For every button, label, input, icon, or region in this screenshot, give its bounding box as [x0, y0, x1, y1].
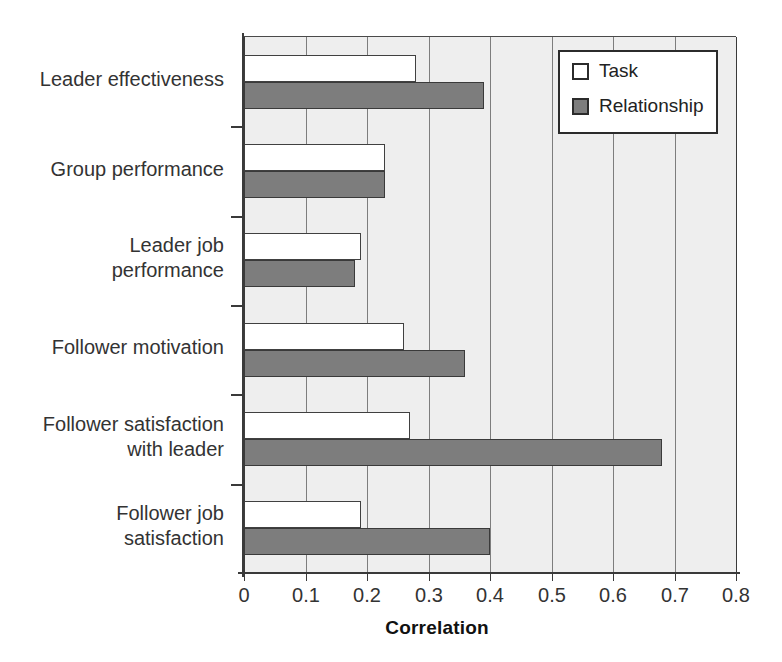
x-tick-0.7 — [675, 573, 676, 581]
y-tick-5 — [231, 484, 243, 486]
x-axis-line — [238, 572, 740, 574]
legend-swatch-relationship-icon — [572, 98, 589, 115]
bar-task-1 — [244, 144, 385, 171]
legend-item-task: Task — [572, 60, 638, 82]
x-tick-label-0.3: 0.3 — [415, 583, 443, 607]
x-tick-0.1 — [306, 573, 307, 581]
bar-relationship-5 — [244, 528, 490, 555]
bar-relationship-1 — [244, 171, 385, 198]
x-tick-0.2 — [367, 573, 368, 581]
y-tick-1 — [231, 126, 243, 128]
x-tick-label-0.8: 0.8 — [722, 583, 750, 607]
bar-relationship-4 — [244, 439, 662, 466]
x-tick-0.3 — [429, 573, 430, 581]
y-tick-3 — [231, 305, 243, 307]
legend-item-relationship: Relationship — [572, 95, 704, 117]
category-label-1: Group performance — [51, 157, 224, 182]
x-tick-0.6 — [613, 573, 614, 581]
bar-task-5 — [244, 501, 361, 528]
x-tick-label-0.6: 0.6 — [599, 583, 627, 607]
legend-swatch-task-icon — [572, 63, 589, 80]
x-axis-title: Correlation — [0, 617, 782, 639]
category-label-2: Leader job performance — [112, 233, 224, 283]
category-label-0: Leader effectiveness — [40, 67, 224, 92]
bar-chart-figure: 00.10.20.30.40.50.60.70.8 Leader effecti… — [0, 0, 782, 662]
bar-relationship-3 — [244, 350, 465, 377]
x-tick-0.5 — [552, 573, 553, 581]
bar-relationship-2 — [244, 260, 355, 287]
x-tick-label-0.4: 0.4 — [476, 583, 504, 607]
gridline-0 — [244, 37, 245, 573]
gridline-0.5 — [552, 37, 553, 573]
category-label-4: Follower satisfaction with leader — [43, 412, 224, 462]
legend-label-relationship: Relationship — [599, 95, 704, 117]
x-tick-0.8 — [736, 573, 737, 581]
x-axis-title-text: Correlation — [385, 617, 489, 639]
legend: Task Relationship — [558, 50, 718, 134]
gridline-0.1 — [306, 37, 307, 573]
x-tick-label-0.5: 0.5 — [538, 583, 566, 607]
gridline-0.2 — [367, 37, 368, 573]
category-label-3: Follower motivation — [52, 335, 224, 360]
gridline-0.3 — [429, 37, 430, 573]
bar-task-2 — [244, 233, 361, 260]
bar-relationship-0 — [244, 82, 484, 109]
legend-label-task: Task — [599, 60, 638, 82]
x-tick-label-0: 0 — [238, 583, 249, 607]
bar-task-3 — [244, 323, 404, 350]
x-tick-0.4 — [490, 573, 491, 581]
y-tick-4 — [231, 394, 243, 396]
category-label-5: Follower job satisfaction — [116, 501, 224, 551]
gridline-0.8 — [736, 37, 737, 573]
bar-task-0 — [244, 55, 416, 82]
x-tick-label-0.7: 0.7 — [661, 583, 689, 607]
y-tick-2 — [231, 216, 243, 218]
gridline-0.4 — [490, 37, 491, 573]
x-tick-label-0.1: 0.1 — [292, 583, 320, 607]
x-tick-0 — [244, 573, 245, 581]
x-tick-label-0.2: 0.2 — [353, 583, 381, 607]
bar-task-4 — [244, 412, 410, 439]
